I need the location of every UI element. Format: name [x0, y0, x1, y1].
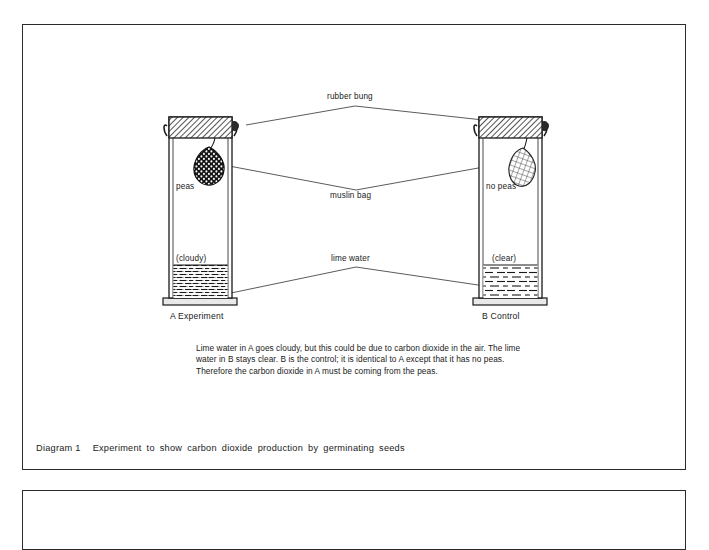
diagram-panel-frame — [22, 24, 686, 470]
leader-label-lime-water: lime water — [331, 254, 370, 263]
apparatus-a-caption: A Experiment — [170, 311, 224, 321]
apparatus-a-liquid-label: (cloudy) — [176, 254, 206, 263]
apparatus-b-liquid-label: (clear) — [492, 254, 516, 263]
explanation-paragraph: Lime water in A goes cloudy, but this co… — [196, 343, 526, 377]
leader-label-muslin-bag: muslin bag — [330, 191, 371, 200]
diagram-caption: Diagram 1Experiment to show carbon dioxi… — [36, 443, 405, 453]
leader-label-rubber-bung: rubber bung — [327, 92, 373, 101]
diagram-caption-number: Diagram 1 — [36, 443, 81, 453]
next-panel-frame — [22, 490, 686, 550]
apparatus-b-caption: B Control — [482, 311, 520, 321]
apparatus-a-contents-label: peas — [176, 182, 194, 191]
diagram-caption-text: Experiment to show carbon dioxide produc… — [93, 443, 405, 453]
apparatus-b-contents-label: no peas — [486, 182, 516, 191]
